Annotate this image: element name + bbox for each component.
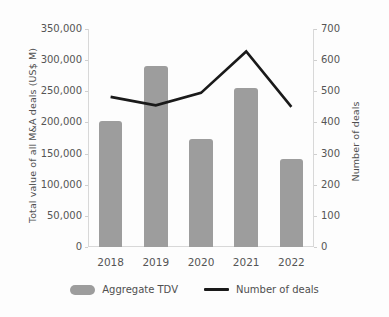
- line-series-number-of-deals: [88, 29, 314, 247]
- y-axis-left-tick-label: 50,000: [47, 211, 82, 221]
- line-swatch-icon: [204, 288, 229, 291]
- legend-item-number-of-deals: Number of deals: [204, 284, 319, 295]
- x-axis-label-2019: 2019: [142, 256, 169, 268]
- y-axis-left-tick-label: 250,000: [41, 86, 82, 96]
- y-axis-left-tick-label: 300,000: [41, 55, 82, 65]
- y-axis-right-tick-label: 0: [321, 242, 327, 252]
- line-path-number-of-deals: [111, 51, 292, 106]
- x-axis-label-2018: 2018: [97, 256, 124, 268]
- y-axis-right-tick-mark: [314, 60, 317, 61]
- x-axis-label-2020: 2020: [188, 256, 215, 268]
- x-axis-label-2022: 2022: [278, 256, 305, 268]
- y-axis-right-tick-mark: [314, 122, 317, 123]
- y-axis-left-tick-label: 150,000: [41, 149, 82, 159]
- y-axis-left-tick-label: 0: [76, 242, 82, 252]
- y-axis-right-tick-label: 700: [321, 24, 340, 34]
- legend-item-aggregate-tdv: Aggregate TDV: [70, 284, 178, 295]
- y-axis-left-title: Total value of all M&A deals (US$ M): [27, 36, 38, 236]
- y-axis-right-tick-label: 400: [321, 117, 340, 127]
- y-axis-right-tick-mark: [314, 247, 317, 248]
- legend-label-number-of-deals: Number of deals: [236, 284, 319, 295]
- y-axis-right-tick-label: 100: [321, 211, 340, 221]
- y-axis-right-tick-label: 600: [321, 55, 340, 65]
- y-axis-left-tick-label: 100,000: [41, 180, 82, 190]
- y-axis-right-tick-mark: [314, 216, 317, 217]
- y-axis-right-tick-label: 300: [321, 149, 340, 159]
- y-axis-right-tick-mark: [314, 29, 317, 30]
- y-axis-left-tick-mark: [85, 247, 88, 248]
- chart-legend: Aggregate TDV Number of deals: [0, 284, 389, 295]
- x-axis-label-2021: 2021: [233, 256, 260, 268]
- y-axis-right-tick-label: 200: [321, 180, 340, 190]
- y-axis-left-tick-label: 350,000: [41, 24, 82, 34]
- y-axis-right-tick-mark: [314, 154, 317, 155]
- y-axis-right-tick-label: 500: [321, 86, 340, 96]
- chart-container: Total value of all M&A deals (US$ M) Num…: [0, 0, 389, 317]
- y-axis-right-tick-mark: [314, 91, 317, 92]
- y-axis-left-tick-label: 200,000: [41, 117, 82, 127]
- legend-label-aggregate-tdv: Aggregate TDV: [102, 284, 178, 295]
- plot-area: 050,000100,000150,000200,000250,000300,0…: [88, 29, 314, 247]
- y-axis-right-tick-mark: [314, 185, 317, 186]
- y-axis-right-title: Number of deals: [350, 77, 361, 207]
- bar-swatch-icon: [70, 285, 95, 295]
